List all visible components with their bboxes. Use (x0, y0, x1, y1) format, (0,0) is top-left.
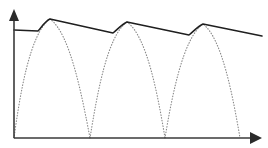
axes-group (9, 9, 262, 144)
ripple-arch-3 (165, 24, 240, 138)
ripple-arch-1 (14, 19, 90, 138)
waveform-figure (0, 0, 268, 148)
x-axis-arrow-icon (250, 132, 262, 144)
y-axis-arrow-icon (9, 9, 19, 21)
peak-envelope-curve (14, 19, 262, 36)
waveform-chart-canvas (0, 0, 268, 148)
ripple-arch-2 (90, 22, 165, 138)
ripple-arch-group (14, 19, 240, 138)
peak-envelope-group (14, 19, 262, 36)
